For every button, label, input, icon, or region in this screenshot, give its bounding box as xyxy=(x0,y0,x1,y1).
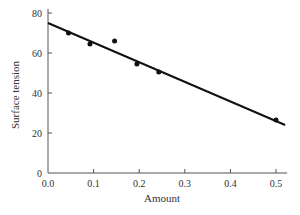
x-tick-label: 0.4 xyxy=(224,178,237,189)
plot-area xyxy=(48,23,285,125)
regression-line xyxy=(48,23,285,125)
y-tick-label: 20 xyxy=(32,128,42,139)
x-axis-label: Amount xyxy=(144,192,180,204)
y-tick-label: 0 xyxy=(37,168,42,179)
x-tick-label: 0.1 xyxy=(87,178,100,189)
data-point xyxy=(112,39,117,44)
y-axis-label: Surface tension xyxy=(9,60,21,129)
x-tick-label: 0.5 xyxy=(270,178,283,189)
y-tick-label: 40 xyxy=(32,88,42,99)
y-tick-label: 80 xyxy=(32,8,42,19)
x-tick-label: 0.3 xyxy=(179,178,192,189)
y-tick-label: 60 xyxy=(32,48,42,59)
x-tick-label: 0.0 xyxy=(42,178,55,189)
x-tick-label: 0.2 xyxy=(133,178,146,189)
scatter-chart: 0.00.10.20.30.40.5020406080 Amount Surfa… xyxy=(0,0,300,215)
